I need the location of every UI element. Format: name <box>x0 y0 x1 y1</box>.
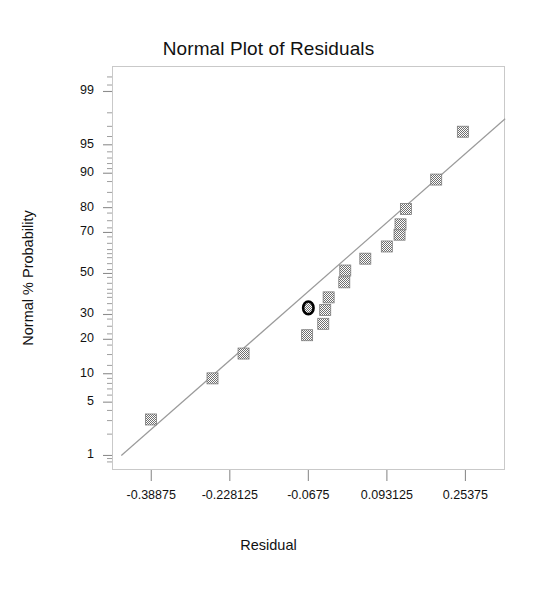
data-point[interactable] <box>400 204 411 215</box>
data-point-highlighted[interactable] <box>303 301 313 314</box>
data-point[interactable] <box>457 126 468 137</box>
y-tick-label: 30 <box>54 307 94 320</box>
data-point[interactable] <box>238 348 249 359</box>
normal-reference-line <box>121 119 505 456</box>
y-tick-label: 1 <box>54 448 94 461</box>
data-point[interactable] <box>339 277 350 288</box>
y-tick-label: 99 <box>54 84 94 97</box>
data-point[interactable] <box>360 253 371 264</box>
x-tick-label: 0.25375 <box>410 489 520 502</box>
y-tick-label: 10 <box>54 367 94 380</box>
data-point[interactable] <box>395 219 406 230</box>
data-point[interactable] <box>145 414 156 425</box>
data-point[interactable] <box>381 241 392 252</box>
y-tick-label: 5 <box>54 395 94 408</box>
data-point[interactable] <box>340 265 351 276</box>
data-point[interactable] <box>320 305 331 316</box>
y-tick-label: 50 <box>54 266 94 279</box>
data-point[interactable] <box>431 174 442 185</box>
y-tick-label: 70 <box>54 225 94 238</box>
data-point[interactable] <box>302 330 313 341</box>
data-point-series <box>145 126 468 425</box>
y-tick-label: 20 <box>54 332 94 345</box>
y-tick-label: 90 <box>54 166 94 179</box>
reference-line-segment <box>121 119 505 456</box>
y-axis-tick-marks <box>103 77 112 462</box>
data-point[interactable] <box>323 292 334 303</box>
x-axis-tick-marks <box>151 470 465 481</box>
y-tick-label: 95 <box>54 138 94 151</box>
normal-probability-plot-figure: Normal Plot of Residuals Normal % Probab… <box>0 0 537 592</box>
data-point[interactable] <box>394 229 405 240</box>
y-tick-label: 80 <box>54 201 94 214</box>
data-point[interactable] <box>318 318 329 329</box>
data-point[interactable] <box>207 373 218 384</box>
